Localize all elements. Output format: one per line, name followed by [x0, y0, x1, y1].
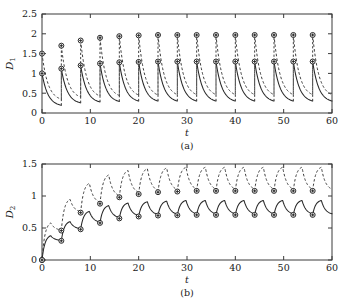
data-marker: [291, 212, 296, 217]
y-tick-label: 1: [31, 68, 37, 79]
data-marker: [175, 189, 180, 194]
curve-segment: [100, 206, 119, 223]
y-tick-label: 1.5: [22, 48, 37, 59]
data-marker: [98, 61, 103, 66]
curve-segment: [81, 211, 100, 229]
data-marker: [252, 188, 257, 193]
data-marker: [98, 220, 103, 225]
curve-segment: [197, 62, 216, 102]
data-marker: [59, 66, 64, 71]
data-marker: [59, 43, 64, 48]
data-marker: [136, 214, 141, 219]
x-tick-label: 60: [326, 262, 338, 273]
curve-segment: [100, 64, 119, 102]
curve-segment: [274, 201, 293, 215]
x-tick-label: 50: [278, 115, 290, 126]
figure-container: 010203040506000.511.522.5D1t(a) 01020304…: [0, 0, 344, 306]
chart-panel-b: 010203040506000.511.5D2t(b): [0, 152, 344, 306]
curve-segment: [197, 201, 216, 215]
data-marker: [233, 212, 238, 217]
x-tick-label: 50: [278, 262, 290, 273]
y-tick-label: 2.5: [22, 8, 37, 19]
curve-segment: [61, 199, 80, 230]
curve-segment: [177, 62, 196, 102]
data-marker: [194, 32, 199, 37]
data-marker: [78, 38, 83, 43]
x-axis: 0102030405060: [39, 164, 338, 273]
y-tick-label: 0.5: [22, 88, 37, 99]
data-marker: [233, 32, 238, 37]
curve-segment: [313, 35, 332, 95]
curve-segment: [235, 62, 254, 102]
curve-segment: [235, 35, 254, 95]
data-marker: [156, 59, 161, 64]
panel-caption: (b): [180, 287, 194, 298]
curve-segment: [158, 201, 177, 215]
x-tick-label: 40: [229, 115, 241, 126]
data-marker: [194, 188, 199, 193]
data-marker: [291, 188, 296, 193]
y-tick-label: 0: [31, 254, 37, 265]
data-marker: [310, 59, 315, 64]
curve-segment: [158, 35, 177, 95]
x-axis-label: t: [185, 127, 189, 138]
data-marker: [214, 188, 219, 193]
curve-segment: [119, 170, 138, 197]
data-marker: [252, 59, 257, 64]
data-marker: [40, 258, 45, 263]
data-marker: [194, 59, 199, 64]
curve-segment: [42, 54, 61, 100]
data-marker: [233, 188, 238, 193]
x-tick-label: 30: [181, 262, 193, 273]
data-marker: [98, 35, 103, 40]
data-marker: [78, 63, 83, 68]
curve-segment: [81, 41, 100, 96]
x-tick-label: 20: [133, 115, 145, 126]
data-marker: [156, 32, 161, 37]
data-marker: [233, 59, 238, 64]
curve-segment: [293, 35, 312, 95]
curve-segment: [61, 46, 80, 97]
chart-svg-a: 010203040506000.511.522.5D1t(a): [0, 0, 344, 152]
data-marker: [136, 33, 141, 38]
data-marker: [175, 59, 180, 64]
y-tick-label: 0: [31, 107, 37, 118]
curve-segment: [197, 35, 216, 95]
curve-segment: [216, 62, 235, 102]
data-marker: [272, 32, 277, 37]
data-marker: [272, 212, 277, 217]
svg-text:D1: D1: [4, 57, 17, 71]
curve-segment: [235, 201, 254, 215]
chart-panel-a: 010203040506000.511.522.5D1t(a): [0, 0, 344, 152]
y-tick-label: 2: [31, 28, 37, 39]
curve-segment: [255, 201, 274, 215]
y-axis-label: D1: [4, 57, 17, 71]
data-marker: [272, 59, 277, 64]
y-tick-label: 0.5: [22, 222, 37, 233]
curve-segment: [216, 201, 235, 215]
data-marker: [156, 213, 161, 218]
data-marker: [272, 188, 277, 193]
curve-segment: [313, 201, 332, 215]
curve-segment: [216, 35, 235, 95]
x-axis-label: t: [185, 274, 189, 285]
data-marker: [291, 59, 296, 64]
data-marker: [214, 32, 219, 37]
data-marker: [310, 32, 315, 37]
data-marker: [156, 190, 161, 195]
curve-segment: [42, 236, 61, 260]
data-marker: [59, 228, 64, 233]
panel-caption: (a): [180, 140, 193, 151]
curve-segment: [274, 167, 293, 191]
y-tick-label: 1.5: [22, 158, 37, 169]
data-marker: [40, 71, 45, 76]
data-marker: [175, 32, 180, 37]
curve-segment: [177, 167, 196, 191]
data-marker: [214, 59, 219, 64]
curve-segment: [177, 201, 196, 216]
curve-segment: [42, 73, 61, 105]
data-marker: [117, 195, 122, 200]
data-marker: [214, 212, 219, 217]
y-axis: 00.511.5: [22, 158, 332, 265]
curve-segment: [119, 62, 138, 101]
